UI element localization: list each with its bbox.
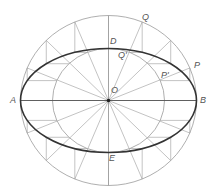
label-D: D <box>110 37 117 46</box>
label-Q: Q <box>142 13 149 22</box>
label-A: A <box>10 96 16 105</box>
label-Q-prime: Q' <box>118 51 127 60</box>
label-O: O <box>111 86 118 95</box>
radial-line <box>109 101 143 180</box>
radial-line <box>27 68 108 101</box>
label-P-prime: P' <box>161 71 169 80</box>
label-P: P <box>194 61 200 70</box>
radial-line <box>109 101 190 134</box>
radial-line <box>109 68 190 101</box>
label-B: B <box>200 96 206 105</box>
ellipse-construction-diagram <box>0 0 216 196</box>
center-point-O <box>107 99 111 103</box>
label-E: E <box>109 154 115 163</box>
radial-line <box>27 101 108 134</box>
radial-line <box>75 22 109 101</box>
radial-line <box>75 101 109 180</box>
